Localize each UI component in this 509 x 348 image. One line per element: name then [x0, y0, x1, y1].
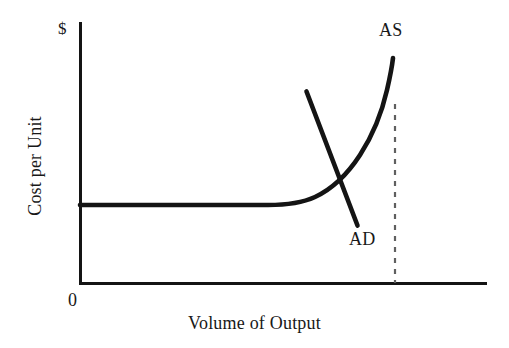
ad-curve-label: AD — [349, 230, 375, 248]
economics-as-ad-chart: $ AS AD 0 Volume of Output Cost per Unit — [0, 0, 509, 348]
origin-label: 0 — [68, 291, 77, 309]
y-axis-title: Cost per Unit — [26, 86, 44, 246]
as-curve-path — [80, 58, 393, 205]
x-axis-title: Volume of Output — [0, 314, 509, 332]
as-curve-label: AS — [379, 21, 402, 39]
y-axis-unit-symbol: $ — [58, 20, 67, 37]
ad-curve-path — [307, 92, 358, 226]
